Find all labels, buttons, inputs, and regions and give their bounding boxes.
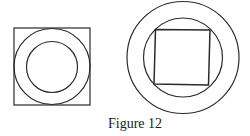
right-figure	[127, 2, 239, 114]
left-figure	[14, 28, 90, 105]
inner-circle	[27, 42, 78, 93]
figure-caption: Figure 12	[10, 116, 250, 132]
square-inscribed-in-circle	[154, 30, 210, 86]
